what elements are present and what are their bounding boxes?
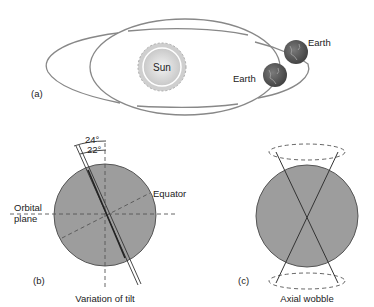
angle-22-label: 22° <box>87 144 102 155</box>
panel-a-eccentricity: Sun Earth Earth (a) <box>31 19 331 115</box>
orbital-plane-label-2: plane <box>14 213 37 224</box>
earth-sphere <box>256 165 358 267</box>
equator-label: Equator <box>153 188 186 199</box>
elongated-orbit <box>46 33 120 103</box>
panel-b-tilt: 24° 22° Equator Orbital plane (b) Variat… <box>10 134 186 304</box>
wobble-top-ellipse <box>269 144 345 160</box>
orbital-plane-label-1: Orbital <box>14 202 42 213</box>
panel-c-wobble: (c) Axial wobble <box>238 144 358 304</box>
sun-icon: Sun <box>138 43 186 91</box>
panel-c-caption: Axial wobble <box>280 293 333 304</box>
earth-icon <box>263 63 287 87</box>
milankovitch-diagram: Sun Earth Earth (a) 24° 22° Equator Orbi… <box>0 0 374 307</box>
earth-label-upper: Earth <box>308 37 331 48</box>
panel-a-label: (a) <box>31 88 43 99</box>
wobble-bottom-ellipse <box>269 273 345 289</box>
panel-b-label: (b) <box>33 275 45 286</box>
panel-c-label: (c) <box>238 275 249 286</box>
earth-icon <box>284 40 308 64</box>
panel-b-caption: Variation of tilt <box>75 293 135 304</box>
earth-label-lower: Earth <box>233 73 256 84</box>
sun-label: Sun <box>153 62 171 73</box>
